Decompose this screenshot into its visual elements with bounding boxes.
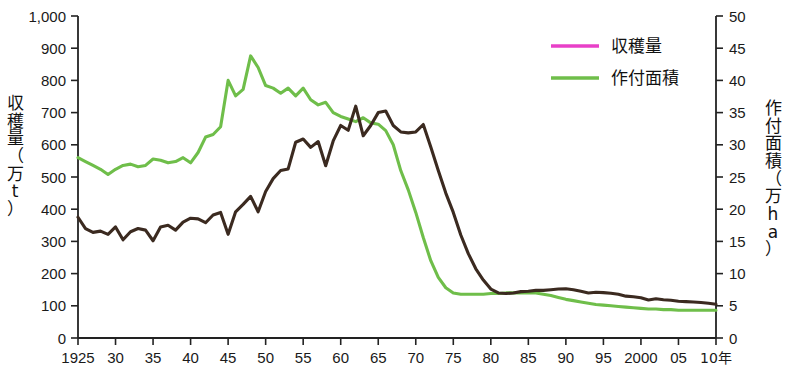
chart-container: 収 穫 量 （ 万 t ） 作 付 面 積 （ 万 h a ） 01002003… — [0, 0, 786, 370]
y-axis-left-tick-label: 0 — [58, 330, 66, 347]
x-axis-tick-label: 45 — [220, 349, 237, 366]
axis-frame — [78, 16, 716, 338]
x-axis-tick-label: 30 — [107, 349, 124, 366]
y-axis-left-ticks: 01002003004005006007008009001,000 — [28, 8, 78, 347]
y-axis-right-tick-label: 30 — [729, 136, 746, 153]
chart-plot: 01002003004005006007008009001,000 051015… — [0, 0, 786, 370]
x-axis-tick-label: 85 — [520, 349, 537, 366]
y-axis-right-tick-label: 40 — [729, 72, 746, 89]
x-axis-tick-label: 75 — [445, 349, 462, 366]
legend-label-yield: 収穫量 — [611, 36, 662, 56]
chart-legend: 収穫量作付面積 — [551, 36, 679, 88]
y-axis-right-tick-label: 50 — [729, 8, 746, 25]
y-axis-right-tick-label: 5 — [729, 297, 737, 314]
x-axis-tick-label: 2000 — [624, 349, 657, 366]
y-axis-right-tick-label: 25 — [729, 169, 746, 186]
y-axis-left-tick-label: 900 — [41, 40, 66, 57]
x-axis-tick-label: 40 — [182, 349, 199, 366]
y-axis-right-tick-label: 45 — [729, 40, 746, 57]
series-line-planted-area — [78, 56, 716, 310]
y-axis-left-tick-label: 100 — [41, 297, 66, 314]
x-axis-tick-label: 10年 — [700, 350, 732, 366]
x-axis-tick-label: 60 — [332, 349, 349, 366]
y-axis-right-tick-label: 0 — [729, 330, 737, 347]
y-axis-left-tick-label: 600 — [41, 136, 66, 153]
x-axis-tick-label: 80 — [482, 349, 499, 366]
x-axis-tick-label: 90 — [558, 349, 575, 366]
y-axis-right-tick-label: 10 — [729, 265, 746, 282]
y-axis-right-tick-label: 20 — [729, 201, 746, 218]
y-axis-right-ticks: 05101520253035404550 — [716, 8, 746, 347]
y-axis-left-tick-label: 700 — [41, 104, 66, 121]
y-axis-left-tick-label: 1,000 — [28, 8, 66, 25]
x-axis-tick-label: 55 — [295, 349, 312, 366]
x-axis-tick-label: 50 — [257, 349, 274, 366]
y-axis-right-tick-label: 35 — [729, 104, 746, 121]
series-line-yield — [78, 106, 716, 304]
y-axis-left-tick-label: 200 — [41, 265, 66, 282]
x-axis-tick-label: 65 — [370, 349, 387, 366]
y-axis-left-tick-label: 800 — [41, 72, 66, 89]
y-axis-left-tick-label: 300 — [41, 233, 66, 250]
x-axis-ticks: 1925303540455055606570758085909520000510… — [61, 338, 732, 366]
x-axis-tick-label: 70 — [407, 349, 424, 366]
y-axis-left-tick-label: 400 — [41, 201, 66, 218]
x-axis-tick-label: 95 — [595, 349, 612, 366]
series-paths — [78, 56, 716, 310]
x-axis-tick-label: 1925 — [61, 349, 94, 366]
y-axis-right-tick-label: 15 — [729, 233, 746, 250]
x-axis-tick-label: 35 — [145, 349, 162, 366]
y-axis-left-tick-label: 500 — [41, 169, 66, 186]
legend-label-planted-area: 作付面積 — [611, 68, 679, 88]
x-axis-tick-label: 05 — [670, 349, 687, 366]
